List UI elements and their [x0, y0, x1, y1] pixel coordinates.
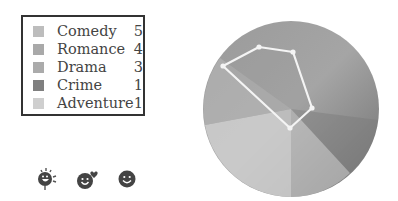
radar-chart [0, 0, 398, 201]
